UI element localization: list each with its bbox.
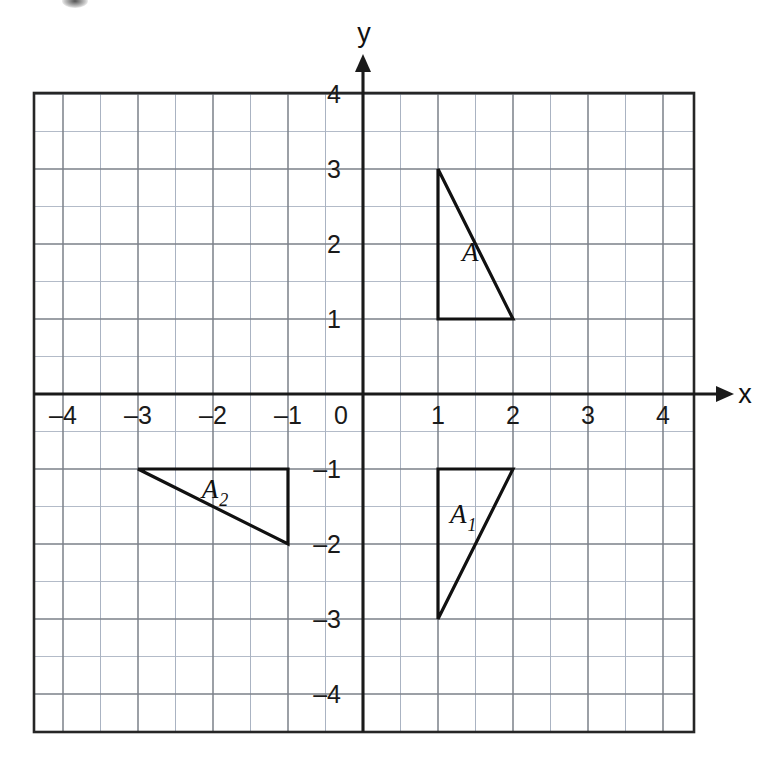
x-tick-labels: –4–3–2–11234 — [49, 401, 670, 429]
y-tick-label: 1 — [327, 305, 341, 333]
y-axis-arrowhead — [355, 54, 371, 72]
shape-label-A: A — [460, 237, 479, 267]
y-tick-label: –2 — [313, 530, 341, 558]
y-tick-label: –1 — [313, 455, 341, 483]
x-tick-label: –4 — [49, 401, 77, 429]
x-axis — [34, 386, 734, 402]
y-tick-label: 2 — [327, 230, 341, 258]
shape-label-A2: A2 — [200, 474, 229, 510]
x-axis-arrowhead — [716, 386, 734, 402]
x-tick-label: –2 — [199, 401, 227, 429]
x-tick-label: 4 — [656, 401, 670, 429]
y-tick-label: –4 — [313, 680, 341, 708]
shape-label-subscript: 2 — [219, 490, 228, 510]
y-tick-label: 4 — [327, 80, 341, 108]
coordinate-plane: x y –4–3–2–11234 4321–1–2–3–4 0 AA1A2 — [0, 0, 775, 761]
x-axis-label: x — [738, 379, 752, 409]
x-tick-label: 3 — [581, 401, 595, 429]
x-tick-label: –3 — [124, 401, 152, 429]
shape-label-A1: A1 — [448, 499, 477, 535]
x-tick-label: 2 — [506, 401, 520, 429]
y-axis-label: y — [357, 18, 371, 48]
x-tick-label: 1 — [431, 401, 445, 429]
shape-label-subscript: 1 — [468, 515, 477, 535]
y-tick-label: 3 — [327, 155, 341, 183]
x-tick-label: –1 — [274, 401, 302, 429]
origin-tick-label: 0 — [334, 401, 348, 429]
figure-root: x y –4–3–2–11234 4321–1–2–3–4 0 AA1A2 — [0, 0, 775, 761]
y-tick-label: –3 — [313, 605, 341, 633]
